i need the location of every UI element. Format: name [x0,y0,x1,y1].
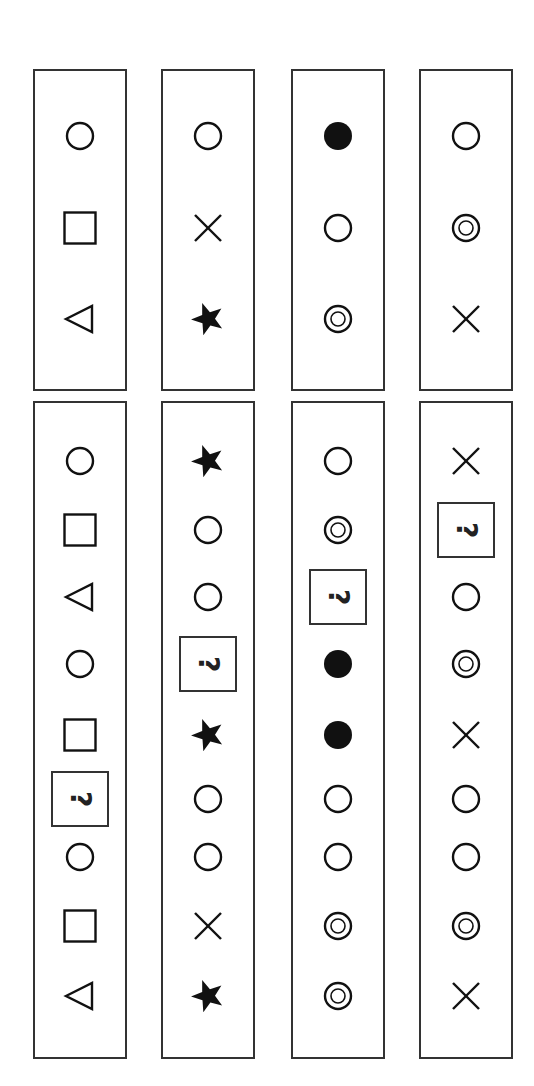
cross-icon [191,211,225,245]
question-mark: ? [452,522,480,538]
double-circle-icon [321,513,355,547]
double-circle-icon [321,979,355,1013]
circle-icon [449,840,483,874]
circle-icon [191,513,225,547]
triangle-left-icon [63,979,97,1013]
circle-icon [321,782,355,816]
square-icon [63,211,97,245]
cross-icon [449,979,483,1013]
filled-circle-icon [321,647,355,681]
question-box[interactable]: ? [437,502,495,558]
double-circle-icon [321,909,355,943]
square-icon [63,909,97,943]
circle-icon [63,647,97,681]
question-mark: ? [66,791,94,807]
question-mark: ? [324,589,352,605]
square-icon [63,513,97,547]
question-mark: ? [194,656,222,672]
double-circle-icon [449,211,483,245]
cross-icon [449,302,483,336]
triangle-left-icon [63,302,97,336]
triangle-left-icon [63,580,97,614]
question-box[interactable]: ? [179,636,237,692]
circle-icon [191,580,225,614]
filled-circle-icon [321,718,355,752]
circle-icon [321,211,355,245]
circle-icon [449,119,483,153]
circle-icon [449,782,483,816]
circle-icon [63,840,97,874]
question-box[interactable]: ? [309,569,367,625]
star-icon [191,718,225,752]
question-box[interactable]: ? [51,771,109,827]
filled-circle-icon [321,119,355,153]
double-circle-icon [321,302,355,336]
circle-icon [449,580,483,614]
star-icon [191,979,225,1013]
star-icon [191,302,225,336]
double-circle-icon [449,647,483,681]
double-circle-icon [449,909,483,943]
cross-icon [449,444,483,478]
circle-icon [191,840,225,874]
circle-icon [191,782,225,816]
circle-icon [63,119,97,153]
circle-icon [321,840,355,874]
circle-icon [321,444,355,478]
circle-icon [191,119,225,153]
cross-icon [449,718,483,752]
circle-icon [63,444,97,478]
star-icon [191,444,225,478]
cross-icon [191,909,225,943]
square-icon [63,718,97,752]
